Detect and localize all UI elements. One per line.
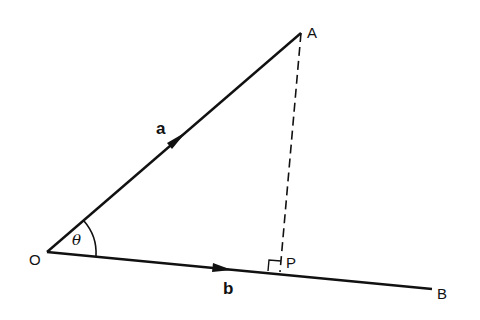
angle-label-theta: θ [72, 231, 81, 249]
point-label-P: P [286, 254, 296, 271]
vector-diagram: O A P B a b θ [0, 0, 480, 320]
vector-label-b: b [223, 279, 233, 298]
vector-b-line [47, 252, 432, 289]
point-label-B: B [437, 285, 447, 302]
right-angle-marker [268, 260, 281, 271]
point-label-A: A [307, 24, 317, 41]
perpendicular-dashed-line [280, 33, 301, 272]
angle-arc [84, 221, 96, 256]
point-label-O: O [29, 251, 41, 268]
vector-label-a: a [156, 119, 166, 138]
